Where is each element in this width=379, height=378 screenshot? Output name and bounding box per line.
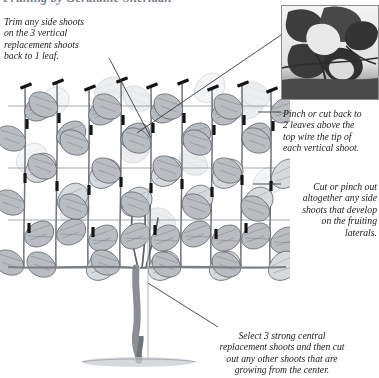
note-trim-side-shoots: Trim any side shoots on the 3 vertical r…	[4, 16, 144, 62]
page-title-text: Pruning by Geraldine Sheridan	[3, 0, 243, 5]
foliage	[0, 92, 290, 281]
note-select-3-shoots: Select 3 strong central replacement shoo…	[187, 330, 377, 376]
note-pinch-or-cut-back: Pinch or cut back to 2 leaves above the …	[283, 108, 377, 154]
ground	[82, 357, 196, 367]
page-root: Pruning by Geraldine Sheridan	[0, 0, 379, 378]
page-title: Pruning by Geraldine Sheridan	[3, 0, 243, 5]
note-cut-or-pinch-out: Cut or pinch out altogether any side sho…	[281, 181, 377, 238]
vine-trunk	[135, 268, 141, 360]
grapevine-leaves-photo	[281, 5, 379, 100]
cordon-arms	[8, 267, 286, 268]
